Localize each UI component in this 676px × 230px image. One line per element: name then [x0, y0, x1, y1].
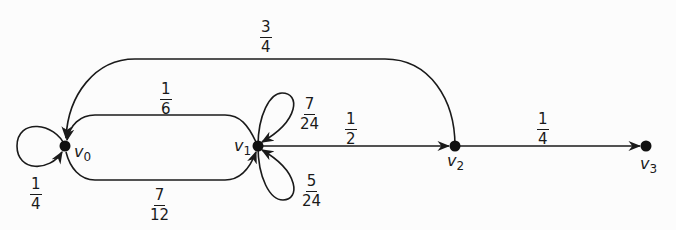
fraction-denominator: 2 [346, 130, 356, 147]
fraction-numerator: 1 [345, 112, 357, 130]
fraction-numerator: 3 [260, 20, 272, 38]
fraction-denominator: 12 [150, 206, 169, 223]
node-label-v2: v2 [447, 153, 464, 172]
fraction-denominator: 24 [302, 192, 321, 209]
edge-label-v1-v1-upper: 7 24 [300, 97, 319, 132]
fraction-numerator: 5 [306, 174, 318, 192]
edge-label-v2-v0: 3 4 [260, 20, 272, 55]
edge-v1-v1-upper [258, 93, 294, 146]
edge-label-v1-v2: 1 2 [345, 112, 357, 147]
fraction-denominator: 4 [538, 130, 548, 147]
edge-v1-v1-lower [258, 146, 294, 200]
edge-v1-v0 [67, 115, 256, 142]
fraction-denominator: 6 [161, 100, 171, 117]
node-label-v3: v3 [640, 156, 657, 175]
node-v1 [253, 141, 264, 152]
edge-label-v1-v1-lower: 5 24 [302, 174, 321, 209]
node-label-v0: v0 [74, 144, 91, 163]
node-v3 [641, 141, 652, 152]
edge-label-v2-v3: 1 4 [537, 112, 549, 147]
node-v2 [450, 141, 461, 152]
edge-label-v0-v0: 1 4 [30, 177, 42, 212]
fraction-numerator: 7 [304, 97, 316, 115]
fraction-denominator: 24 [300, 115, 319, 132]
node-label-v3-sub: 3 [649, 162, 657, 176]
fraction-numerator: 1 [30, 177, 42, 195]
fraction-numerator: 1 [160, 82, 172, 100]
fraction-numerator: 7 [154, 188, 166, 206]
node-label-v0-sub: 0 [83, 150, 91, 164]
edge-v2-v0 [66, 59, 455, 146]
edge-v0-v0 [17, 126, 65, 166]
fraction-denominator: 4 [31, 195, 41, 212]
edge-label-v0-v1: 7 12 [150, 188, 169, 223]
node-label-v1-sub: 1 [243, 144, 251, 158]
node-label-v1: v1 [234, 138, 251, 157]
diagram-canvas [0, 0, 676, 230]
fraction-denominator: 4 [261, 38, 271, 55]
node-label-v2-sub: 2 [456, 159, 464, 173]
fraction-numerator: 1 [537, 112, 549, 130]
node-v0 [60, 141, 71, 152]
edge-v0-v1 [66, 152, 256, 180]
edge-label-v1-v0: 1 6 [160, 82, 172, 117]
